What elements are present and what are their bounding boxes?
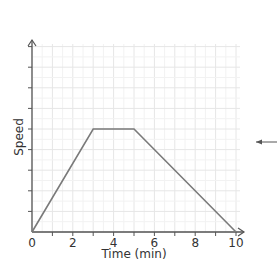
x-axis-label: Time (min) (100, 247, 166, 261)
x-tick-label: 10 (228, 236, 243, 250)
y-axis-label: Speed (12, 118, 26, 156)
speed-time-chart: 0246810 Time (min) Speed (0, 0, 277, 276)
x-tick-label: 0 (28, 236, 36, 250)
x-tick-label: 2 (69, 236, 77, 250)
x-tick-label: 8 (191, 236, 199, 250)
left-arrow-icon (256, 140, 277, 145)
axis-ticks (28, 47, 236, 236)
